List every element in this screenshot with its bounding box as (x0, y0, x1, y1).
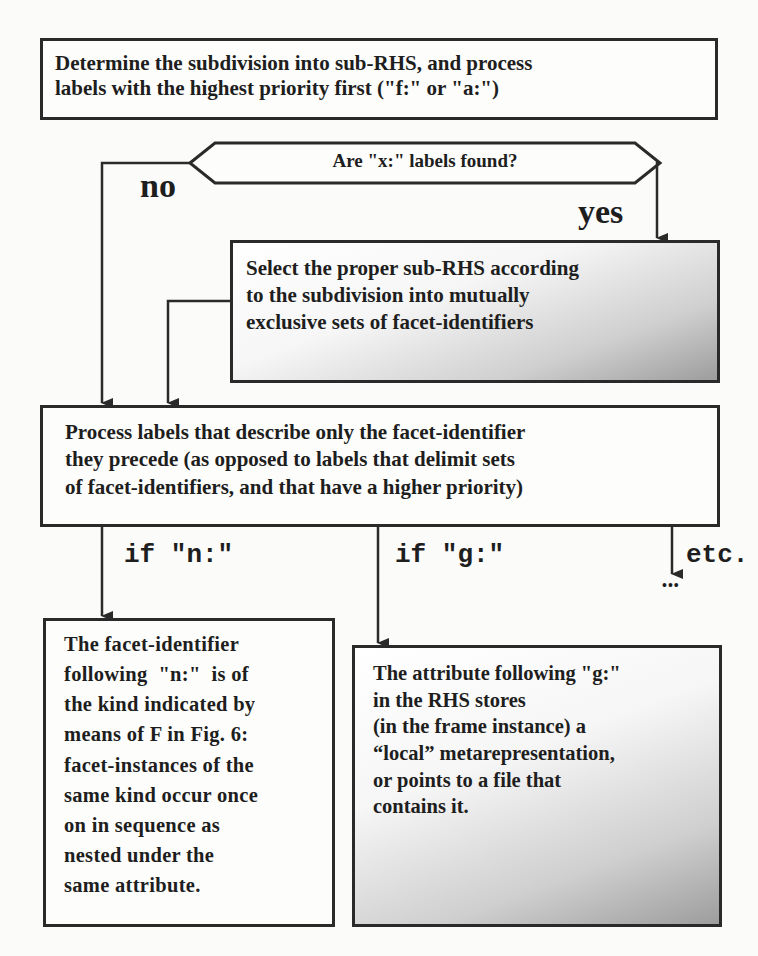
n-case-line: same kind occur once (64, 780, 258, 810)
n-case-line: The facet-identifier (64, 629, 258, 659)
select-line-1: Select the proper sub-RHS according (246, 255, 579, 282)
select-line-3: exclusive sets of facet-identifiers (246, 309, 579, 336)
g-case-box: The attribute following "g:" in the RHS … (352, 645, 722, 927)
n-case-line: on in sequence as (64, 810, 258, 840)
yes-label: yes (578, 193, 623, 231)
n-case-line: facet-instances of the (64, 750, 258, 780)
decision-text: Are "x:" labels found? (255, 150, 595, 172)
start-box: Determine the subdivision into sub-RHS, … (40, 38, 718, 120)
start-line-2: labels with the highest priority first (… (55, 76, 532, 101)
select-to-process-arrow (168, 301, 230, 403)
start-line-1: Determine the subdivision into sub-RHS, … (55, 51, 532, 76)
n-case-box: The facet-identifier following "n:" is o… (43, 618, 335, 927)
select-line-2: to the subdivision into mutually (246, 282, 579, 309)
n-case-line: means of F in Fig. 6: (64, 719, 258, 749)
process-box: Process labels that describe only the fa… (40, 405, 720, 527)
if-g-label: if "g:" (395, 540, 504, 570)
n-case-line: the kind indicated by (64, 689, 258, 719)
g-case-line: (in the frame instance) a (373, 713, 621, 740)
n-case-line: same attribute. (64, 870, 258, 900)
etc-label: etc. (686, 540, 748, 570)
g-case-line: The attribute following "g:" (373, 660, 621, 687)
process-line-2: they precede (as opposed to labels that … (65, 446, 525, 473)
ellipsis-label: ••• (662, 578, 680, 594)
if-n-label: if "n:" (124, 540, 233, 570)
g-case-line: or points to a file that (373, 767, 621, 794)
no-label: no (140, 167, 176, 205)
select-box: Select the proper sub-RHS according to t… (230, 240, 720, 383)
n-case-line: following "n:" is of (64, 659, 258, 689)
g-case-line: “local” metarepresentation, (373, 740, 621, 767)
g-case-line: contains it. (373, 793, 621, 820)
n-case-line: nested under the (64, 840, 258, 870)
process-line-1: Process labels that describe only the fa… (65, 419, 525, 446)
process-line-3: of facet-identifiers, and that have a hi… (65, 474, 525, 501)
yes-arrow (657, 163, 660, 238)
g-case-line: in the RHS stores (373, 687, 621, 714)
